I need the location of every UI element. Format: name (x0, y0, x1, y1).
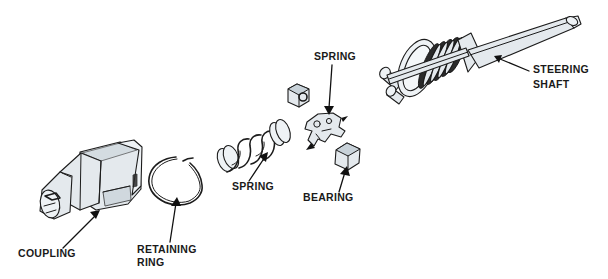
label-spring-lower: SPRING (232, 180, 274, 192)
label-retaining-ring-line2: RING (137, 256, 164, 268)
exploded-parts-diagram: COUPLING RETAINING RING SPRING SPRING BE… (0, 0, 608, 279)
label-spring-upper: SPRING (314, 50, 356, 62)
spring-clip (305, 113, 348, 150)
diagram-canvas: COUPLING RETAINING RING SPRING SPRING BE… (0, 0, 608, 279)
label-bearing: BEARING (303, 191, 354, 203)
bearing-cube-lower (335, 143, 360, 170)
retaining-ring-part (149, 157, 202, 205)
label-coupling: COUPLING (18, 247, 76, 259)
label-steering-shaft-line2: SHAFT (533, 78, 570, 90)
label-steering-shaft: STEERING (533, 63, 589, 75)
coil-spring (214, 118, 293, 174)
steering-shaft-part (377, 15, 581, 104)
label-retaining-ring: RETAINING (137, 243, 197, 255)
coupling-part (38, 140, 142, 220)
bearing-cube-upper (288, 84, 309, 107)
